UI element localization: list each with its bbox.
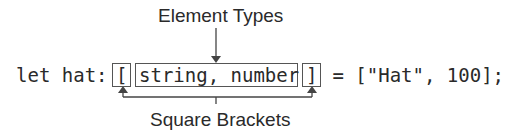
code-open-bracket: [: [116, 66, 127, 85]
code-close-bracket: ]: [306, 66, 317, 85]
code-element-types: string, number: [139, 66, 299, 85]
code-prefix: let hat:: [16, 66, 119, 85]
square-brackets-label: Square Brackets: [150, 110, 290, 129]
code-suffix: = ["Hat", 100];: [321, 66, 504, 85]
